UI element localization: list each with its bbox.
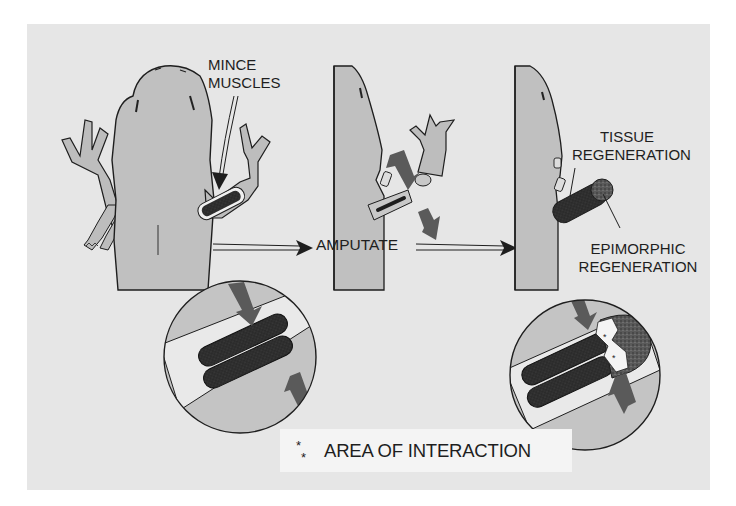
asterisk-marker: * — [612, 353, 616, 363]
label-amputate: AMPUTATE — [316, 236, 398, 254]
label-epimorphic-regeneration: EPIMORPHIC REGENERATION — [570, 240, 706, 276]
legend-text: AREA OF INTERACTION — [324, 440, 531, 462]
label-tissue-line1: TISSUE — [572, 128, 682, 146]
label-mince-muscles: MINCE MUSCLES — [208, 56, 281, 92]
arrow-1 — [213, 240, 313, 256]
inset-left — [160, 281, 330, 450]
salamander-stage-1 — [62, 66, 270, 290]
label-tissue-regeneration: TISSUE REGENERATION — [572, 128, 682, 164]
inset-right: * * — [505, 288, 660, 450]
label-epi-line2: REGENERATION — [570, 258, 706, 276]
label-mince-line2: MUSCLES — [208, 74, 281, 92]
asterisk-icon: * * — [296, 436, 316, 466]
arrow-2 — [416, 240, 517, 256]
asterisk-marker: * — [603, 332, 607, 342]
salamander-stage-2 — [334, 66, 454, 290]
label-tissue-line2: REGENERATION — [572, 146, 682, 164]
legend-box: * * AREA OF INTERACTION — [280, 429, 572, 472]
label-epi-line1: EPIMORPHIC — [570, 240, 706, 258]
legend-asterisk-2: * — [301, 451, 306, 464]
label-mince-line1: MINCE — [208, 56, 281, 74]
